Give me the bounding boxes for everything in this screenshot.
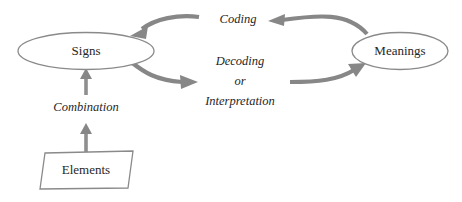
elements-label: Elements <box>62 162 110 177</box>
node-elements[interactable]: Elements <box>40 151 133 189</box>
edge-decoding-arrow-right <box>290 63 366 82</box>
diagram-svg: Signs Meanings Elements Coding Decoding … <box>0 0 462 202</box>
decoding-arrow-right-path <box>290 70 354 82</box>
node-meanings[interactable]: Meanings <box>352 33 448 70</box>
decoding-arrow-left-path <box>131 62 182 82</box>
node-signs[interactable]: Signs <box>18 33 154 70</box>
combination-lower-head <box>80 123 92 134</box>
edge-label-decoding-line3: Interpretation <box>204 94 275 108</box>
meanings-label: Meanings <box>374 43 425 58</box>
coding-arrow-right-head <box>268 14 285 26</box>
edge-label-decoding-line2: or <box>234 74 245 88</box>
edge-decoding-arrow-left <box>131 62 198 89</box>
decoding-arrow-left-head <box>180 75 198 89</box>
edge-label-combination: Combination <box>53 100 118 114</box>
coding-arrow-right-path <box>282 16 367 34</box>
signs-label: Signs <box>72 43 101 58</box>
coding-arrow-left-path <box>142 16 199 29</box>
edge-label-decoding-line1: Decoding <box>215 54 265 68</box>
edge-combination-arrow-lower <box>80 123 92 153</box>
edge-combination-arrow-upper <box>80 68 92 95</box>
edge-label-coding: Coding <box>220 12 257 26</box>
diagram-canvas: Signs Meanings Elements Coding Decoding … <box>0 0 462 202</box>
